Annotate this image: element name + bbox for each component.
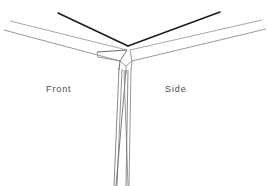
front-panel-corner-return-upper [97,50,127,52]
inner-top-edge-right [128,12,220,46]
corner-joint-figure: Front Side [0,0,268,186]
side-panel-corner-face-right [130,50,132,61]
leg-edge-outer-left [114,68,119,186]
side-label: Side [165,84,187,94]
leg-edge-outer-right [129,69,131,186]
leg-assembly [114,68,131,186]
side-panel-corner-face-left [120,50,127,61]
line-drawing-canvas [0,0,268,186]
side-panel-top-surface [120,29,266,61]
corner-post-head-bevel-left [120,61,126,66]
top-surface-far-edges [10,20,262,50]
inner-top-edge-v [58,12,220,46]
front-panel-corner-return-lower [97,52,98,57]
inner-top-edge-left [58,13,128,46]
front-label: Front [46,84,72,94]
front-panel-far-edge [10,21,127,50]
corner-post-head-right [131,61,132,70]
